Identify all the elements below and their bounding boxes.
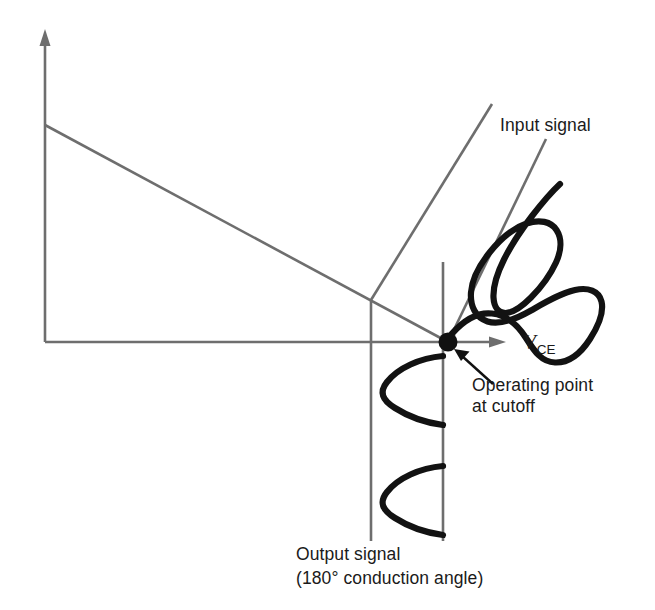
operating-point-label-line1: Operating point [472, 375, 593, 395]
construction-lines-group [371, 104, 546, 541]
labels-group: VCE Input signal Operating point at cuto… [296, 115, 593, 588]
output-signal-waveform-group [383, 356, 443, 535]
output-signal-label-line2: (180° conduction angle) [296, 568, 483, 588]
x-axis-label-main: V [523, 330, 538, 354]
input-signal-label: Input signal [500, 115, 591, 135]
operating-point-label-line2: at cutoff [472, 396, 535, 416]
dc-load-line [45, 125, 448, 342]
dc-load-line-group [45, 125, 448, 342]
axes-group [40, 29, 507, 347]
operating-point-group [439, 333, 458, 352]
x-axis-label-subscript: CE [537, 342, 556, 357]
load-line-diagram: VCE Input signal Operating point at cuto… [0, 0, 655, 610]
output-signal-pulse-2 [383, 466, 443, 535]
x-axis-label: VCE [523, 330, 556, 357]
y-axis-arrowhead [40, 29, 51, 46]
figure-canvas: VCE Input signal Operating point at cuto… [0, 0, 655, 610]
output-signal-pulse-1 [383, 356, 443, 425]
x-axis-arrowhead [489, 337, 506, 348]
steep-diagonal-line [371, 104, 492, 300]
output-signal-label-line1: Output signal [296, 544, 400, 564]
operating-point-dot [439, 333, 458, 352]
